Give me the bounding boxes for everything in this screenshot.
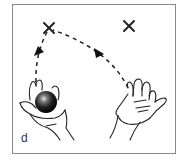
ball <box>35 91 57 113</box>
juggling-illustration <box>0 0 187 160</box>
right-hand-icon <box>110 79 166 140</box>
target-x-left-icon <box>44 23 54 33</box>
target-x-right-icon <box>124 21 134 31</box>
panel-label: d <box>21 131 28 145</box>
throw-path-left <box>36 32 47 82</box>
throw-path-right <box>53 30 128 88</box>
